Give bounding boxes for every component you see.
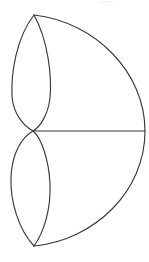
figure-canvas: Semicircle with two inscribed lens shape…: [0, 0, 149, 262]
geometric-figure-svg: [0, 0, 149, 262]
